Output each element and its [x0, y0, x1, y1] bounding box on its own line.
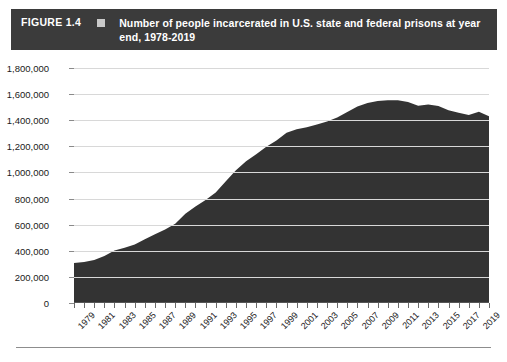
x-axis-tick-mark [195, 303, 196, 308]
x-axis-tick-mark [357, 303, 358, 308]
x-axis-tick-mark [175, 303, 176, 308]
x-axis-tick-mark [94, 303, 95, 308]
footer-divider [16, 347, 491, 348]
x-axis-tick-mark [74, 303, 75, 308]
gridline [74, 146, 489, 147]
x-axis-tick-mark [125, 303, 126, 308]
y-axis-tick-label: 600,000 [0, 219, 49, 230]
x-axis-tick-mark [438, 303, 439, 308]
x-axis-tick-marks [74, 303, 489, 309]
y-axis-tick-label: 0 [0, 298, 49, 309]
x-axis-tick-mark [307, 303, 308, 308]
x-axis-tick-mark [114, 303, 115, 308]
x-axis-tick-label: 2017 [461, 310, 482, 331]
figure-number-label: FIGURE 1.4 [21, 16, 81, 29]
x-axis-tick-mark [135, 303, 136, 308]
x-axis-tick-label: 2015 [440, 310, 461, 331]
x-axis-tick-label: 1987 [157, 310, 178, 331]
x-axis-tick-mark [347, 303, 348, 308]
x-axis-tick-mark [287, 303, 288, 308]
y-axis-tick-mark [69, 94, 74, 95]
x-axis-tick-label: 1991 [197, 310, 218, 331]
x-axis-tick-label: 1993 [218, 310, 239, 331]
x-axis-tick-mark [418, 303, 419, 308]
y-axis-tick-label: 800,000 [0, 193, 49, 204]
y-axis-tick-label: 1,400,000 [0, 115, 49, 126]
x-axis-tick-mark [408, 303, 409, 308]
figure-root: FIGURE 1.4 Number of people incarcerated… [0, 0, 507, 362]
x-axis-tick-label: 1999 [278, 310, 299, 331]
x-axis-tick-mark [469, 303, 470, 308]
x-axis-tick-mark [216, 303, 217, 308]
gridline [74, 172, 489, 173]
gridline [74, 120, 489, 121]
x-axis-tick-mark [185, 303, 186, 308]
y-axis-tick-mark [69, 225, 74, 226]
y-axis-tick-label: 1,000,000 [0, 167, 49, 178]
x-axis-tick-label: 1983 [116, 310, 137, 331]
y-axis-tick-label: 1,800,000 [0, 63, 49, 74]
y-axis-tick-label: 1,200,000 [0, 141, 49, 152]
x-axis-tick-label: 2013 [420, 310, 441, 331]
x-axis-tick-mark [276, 303, 277, 308]
x-axis-tick-mark [155, 303, 156, 308]
x-axis-tick-label: 2001 [299, 310, 320, 331]
x-axis-tick-mark [84, 303, 85, 308]
figure-header-bar: FIGURE 1.4 Number of people incarcerated… [11, 9, 497, 50]
x-axis-tick-label: 2007 [359, 310, 380, 331]
plot-wrapper: 0200,000400,000600,000800,0001,000,0001,… [0, 52, 507, 314]
x-axis-tick-mark [266, 303, 267, 308]
y-axis-tick-mark [69, 146, 74, 147]
x-axis-tick-label: 1989 [177, 310, 198, 331]
gridline [74, 225, 489, 226]
x-axis-tick-mark [327, 303, 328, 308]
x-axis-tick-mark [246, 303, 247, 308]
x-axis-tick-label: 1995 [238, 310, 259, 331]
x-axis-tick-mark [226, 303, 227, 308]
gridline [74, 199, 489, 200]
plot-area: 0200,000400,000600,000800,0001,000,0001,… [74, 68, 489, 303]
x-axis-tick-mark [337, 303, 338, 308]
x-axis-tick-label: 1997 [258, 310, 279, 331]
gridline [74, 68, 489, 69]
x-axis-tick-label: 1981 [96, 310, 117, 331]
y-axis-tick-label: 200,000 [0, 271, 49, 282]
figure-title: Number of people incarcerated in U.S. st… [119, 16, 489, 44]
x-axis-tick-mark [459, 303, 460, 308]
area-chart-series [74, 68, 489, 303]
x-axis-tick-label: 2019 [481, 310, 502, 331]
x-axis-tick-mark [317, 303, 318, 308]
y-axis-tick-label: 1,600,000 [0, 89, 49, 100]
x-axis-tick-mark [479, 303, 480, 308]
x-axis-tick-labels: 1979198119831985198719891991199319951997… [74, 310, 489, 360]
y-axis-tick-mark [69, 172, 74, 173]
x-axis-tick-label: 2005 [339, 310, 360, 331]
y-axis-tick-mark [69, 277, 74, 278]
x-axis-tick-mark [428, 303, 429, 308]
x-axis-tick-mark [398, 303, 399, 308]
y-axis-tick-mark [69, 199, 74, 200]
x-axis-tick-mark [145, 303, 146, 308]
y-axis-tick-mark [69, 120, 74, 121]
x-axis-tick-label: 1979 [76, 310, 97, 331]
y-axis-tick-mark [69, 68, 74, 69]
gridline [74, 94, 489, 95]
square-marker-icon [97, 19, 105, 27]
y-axis-tick-mark [69, 251, 74, 252]
x-axis-tick-mark [165, 303, 166, 308]
x-axis-tick-mark [489, 303, 490, 308]
x-axis-tick-label: 2011 [400, 310, 421, 331]
gridline [74, 277, 489, 278]
x-axis-tick-mark [236, 303, 237, 308]
x-axis-tick-mark [378, 303, 379, 308]
x-axis-tick-mark [297, 303, 298, 308]
x-axis-tick-label: 2009 [380, 310, 401, 331]
y-axis-tick-label: 400,000 [0, 245, 49, 256]
x-axis-tick-mark [256, 303, 257, 308]
x-axis-tick-mark [206, 303, 207, 308]
x-axis-tick-label: 1985 [137, 310, 158, 331]
x-axis-tick-mark [449, 303, 450, 308]
gridline [74, 251, 489, 252]
x-axis-tick-mark [388, 303, 389, 308]
x-axis-tick-mark [104, 303, 105, 308]
